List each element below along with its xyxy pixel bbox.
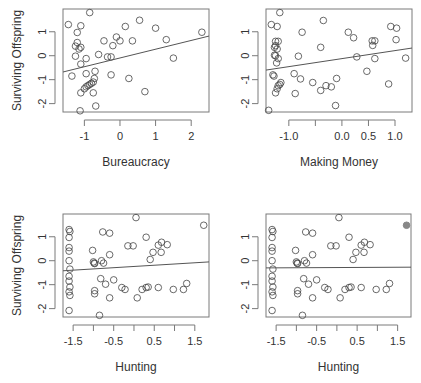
data-point [69, 73, 76, 80]
data-point [320, 17, 327, 24]
data-point [342, 286, 349, 293]
data-point [385, 81, 392, 88]
data-point [183, 280, 190, 287]
regression-line [63, 262, 209, 271]
data-point [110, 277, 117, 284]
data-point [158, 249, 165, 256]
scatter-plot-figure: -1012Bureaucracy-2-101Surviving Offsprin… [0, 0, 421, 383]
x-axis: -1.00.00.51.0 [279, 120, 402, 142]
data-point [297, 76, 304, 83]
x-axis-label: Hunting [318, 360, 359, 374]
data-point [299, 29, 306, 36]
data-point [367, 241, 374, 248]
data-point [373, 286, 380, 293]
scatter-panel-top-left: -1012Bureaucracy-2-101Surviving Offsprin… [10, 9, 209, 169]
x-tick-label: 1.0 [387, 130, 402, 142]
plot-frame [63, 214, 209, 317]
data-point [66, 234, 73, 241]
y-tick-label: -2 [239, 99, 251, 109]
data-point [292, 90, 299, 97]
data-point [313, 277, 320, 284]
y-tick-label: -1 [36, 75, 48, 85]
data-point [317, 44, 324, 51]
plot-frame [63, 9, 209, 112]
data-point [393, 25, 400, 32]
y-tick-label: -2 [36, 304, 48, 314]
data-point [77, 108, 84, 115]
y-tick-label: -1 [239, 280, 251, 290]
data-point [78, 61, 85, 68]
x-tick-label: 1.5 [390, 335, 405, 347]
x-tick-label: 1 [153, 130, 159, 142]
highlighted-data-point [403, 222, 410, 229]
data-point [272, 90, 279, 97]
data-point [142, 88, 149, 95]
y-tick-label: 0 [239, 258, 251, 264]
y-tick-label: 0 [239, 53, 251, 59]
data-point [309, 230, 316, 237]
y-tick-label: -1 [36, 280, 48, 290]
data-point [274, 23, 281, 30]
y-tick-label: 0 [36, 258, 48, 264]
data-point [106, 251, 113, 258]
data-point [106, 295, 113, 302]
data-point [134, 295, 141, 302]
data-point [199, 29, 206, 36]
data-point [333, 75, 340, 82]
data-points [65, 9, 205, 114]
x-tick-label: -1.5 [267, 335, 286, 347]
data-point [86, 9, 93, 16]
data-point [337, 295, 344, 302]
data-point [302, 229, 309, 236]
y-tick-label: 1 [36, 234, 48, 240]
y-tick-label: -2 [239, 304, 251, 314]
data-point [96, 312, 103, 319]
data-point [358, 284, 365, 291]
x-tick-label: 1.5 [187, 335, 202, 347]
x-tick-label: 0.5 [147, 335, 162, 347]
y-tick-label: 0 [36, 53, 48, 59]
data-point [269, 257, 276, 264]
x-tick-label: -1.0 [279, 130, 298, 142]
data-point [372, 55, 379, 62]
x-axis: -1012 [79, 120, 194, 142]
x-tick-label: 0.0 [334, 130, 349, 142]
data-point [117, 38, 124, 45]
data-point [170, 55, 177, 62]
data-point [150, 249, 157, 256]
x-axis-label: Bureaucracy [102, 155, 169, 169]
scatter-panel-top-right: -1.00.00.51.0Making Money-2-101 [239, 9, 412, 169]
data-point [136, 17, 143, 24]
data-point [353, 249, 360, 256]
data-point [78, 90, 85, 97]
data-point [361, 249, 368, 256]
data-point [332, 102, 339, 109]
data-point [83, 70, 90, 77]
data-point [170, 286, 177, 293]
scatter-panel-bottom-right: -1.5-0.50.51.5Hunting-2-101 [239, 214, 411, 374]
data-points [265, 9, 409, 113]
data-point [72, 53, 79, 60]
data-point [294, 260, 301, 267]
data-point [97, 275, 104, 282]
x-tick-label: -1 [79, 130, 89, 142]
x-tick-label: -1.5 [64, 335, 83, 347]
data-point [90, 90, 97, 97]
data-point [269, 278, 276, 285]
data-point [277, 9, 284, 16]
data-point [122, 23, 129, 30]
data-point [164, 241, 171, 248]
y-tick-label: 1 [239, 29, 251, 35]
data-point [99, 229, 106, 236]
data-point [346, 234, 353, 241]
data-point [200, 222, 207, 229]
data-point [299, 312, 306, 319]
x-tick-label: 2 [188, 130, 194, 142]
y-axis: -2-101 [239, 29, 258, 109]
data-point [269, 307, 276, 314]
x-axis: -1.5-0.50.51.5 [267, 325, 406, 347]
data-point [386, 280, 393, 287]
data-point [147, 256, 154, 263]
data-point [295, 53, 302, 60]
data-point [270, 266, 277, 273]
